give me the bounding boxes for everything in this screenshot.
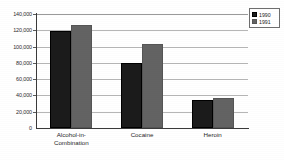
y-axis-tick-label: 40,000 (16, 92, 32, 98)
bar-1991-cocaine[interactable] (142, 44, 163, 128)
bar-1991-heroin[interactable] (213, 98, 234, 128)
gray-swatch (252, 19, 257, 24)
bar-1991-alcohol-in-combination[interactable] (71, 25, 92, 128)
bar-group (177, 14, 248, 128)
legend: 19901991 (249, 8, 280, 28)
bar-group (36, 14, 107, 128)
y-axis-tick-label: 20,000 (16, 109, 32, 115)
bar-group (107, 14, 178, 128)
legend-item-1990[interactable]: 1990 (252, 11, 277, 18)
y-axis-tick-label: 120,000 (13, 27, 32, 33)
x-axis-category-label: Heroin (169, 131, 256, 139)
legend-label: 1990 (259, 12, 271, 18)
dark-swatch (252, 12, 257, 17)
bar-1990-cocaine[interactable] (121, 63, 142, 128)
y-axis-tick-label: 140,000 (13, 11, 32, 17)
bar-1990-heroin[interactable] (192, 100, 213, 128)
x-axis-line (36, 128, 249, 129)
bar-1990-alcohol-in-combination[interactable] (50, 31, 71, 128)
y-axis-tick-label: 60,000 (16, 76, 32, 82)
y-axis-tick-label: 100,000 (13, 44, 32, 50)
legend-label: 1991 (259, 19, 271, 25)
x-axis-category-labels: Alcohol-in- CombinationCocaineHeroin (36, 131, 248, 160)
legend-item-1991[interactable]: 1991 (252, 18, 277, 25)
bar-chart: 020,00040,00060,00080,000100,000120,0001… (0, 0, 284, 160)
bar-groups (36, 14, 248, 128)
y-axis-tick-label: 80,000 (16, 60, 32, 66)
